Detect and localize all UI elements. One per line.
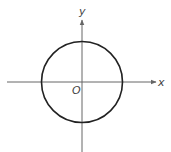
coordinate-diagram: y x O <box>0 0 171 152</box>
y-axis-label: y <box>78 5 86 18</box>
x-axis-label: x <box>157 76 165 89</box>
origin-label: O <box>72 84 81 97</box>
